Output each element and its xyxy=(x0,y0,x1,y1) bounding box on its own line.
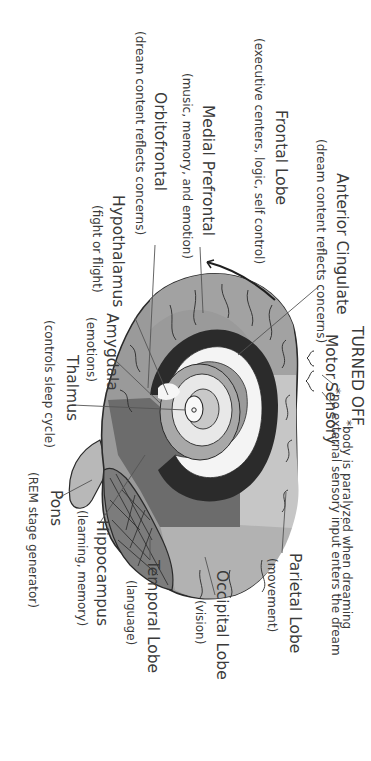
label-hippocampus: Hippocampus xyxy=(93,520,111,626)
label-turned-off: TURNED OFF xyxy=(348,325,366,426)
label-temporal-lobe-desc: (language) xyxy=(124,580,138,645)
motor-brace xyxy=(307,351,314,366)
label-anterior-cingulate: Anterior Cingulate xyxy=(333,173,351,315)
label-parietal-lobe: Parietal Lobe xyxy=(286,553,304,653)
label-motor: Motor xyxy=(322,334,340,379)
thalamus-core xyxy=(185,396,203,422)
label-pons: Pons xyxy=(47,490,65,526)
brain-diagram: Anterior Cingulate (dream content reflec… xyxy=(0,0,371,761)
label-occipital-lobe: Occipital Lobe xyxy=(213,570,231,680)
label-amygdala: Amygdala xyxy=(103,313,121,391)
label-amygdala-desc: (emotions) xyxy=(84,317,98,382)
label-thalmus-desc: (controls sleep cycle) xyxy=(42,320,56,448)
label-medial-prefrontal-desc: (music, memory, and emotion) xyxy=(180,73,194,259)
sensory-brace xyxy=(306,371,314,391)
label-orbitofrontal: Orbitofrontal xyxy=(151,92,169,191)
label-frontal-lobe-desc: (executive centers, logic, self control) xyxy=(252,38,266,264)
label-hypothalamus: Hypothalamus xyxy=(109,195,127,307)
label-thalmus: Thalmus xyxy=(63,354,81,421)
label-orbitofrontal-desc: (dream content reflects concerns) xyxy=(133,31,147,235)
label-occipital-lobe-desc: (vision) xyxy=(193,600,207,644)
label-frontal-lobe: Frontal Lobe xyxy=(272,110,290,205)
label-parietal-lobe-desc: (movement) xyxy=(265,558,279,632)
label-hippocampus-desc: (learning, memory) xyxy=(75,510,89,626)
label-medial-prefrontal: Medial Prefrontal xyxy=(199,105,217,236)
label-temporal-lobe: Temporal Lobe xyxy=(144,559,162,673)
label-sensory-note: *no external sensory input enters the dr… xyxy=(329,388,343,656)
label-anterior-cingulate-desc: (dream content reflects concerns) xyxy=(314,139,328,343)
label-hypothalamus-desc: (fight or flight) xyxy=(90,205,104,293)
label-pons-desc: (REM stage generator) xyxy=(26,472,40,608)
